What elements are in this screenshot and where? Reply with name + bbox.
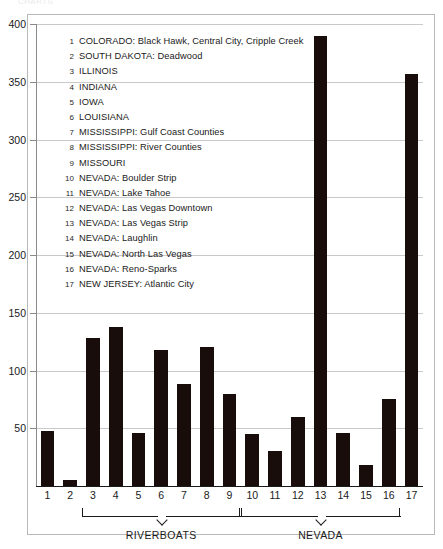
legend-item-number: 17 (60, 280, 79, 289)
bar-14 (336, 433, 350, 486)
legend-item-label: NEVADA: North Las Vegas (79, 249, 192, 259)
bracket-line-left (242, 516, 317, 517)
legend-item-label: SOUTH DAKOTA: Deadwood (79, 51, 202, 61)
bar-chart-figure: CHARTS 50100150200250300350400 123456789… (0, 0, 443, 549)
legend-item-number: 3 (60, 67, 79, 76)
legend-item-8: 8MISSISSIPPI: River Counties (60, 142, 320, 157)
legend-item-number: 6 (60, 113, 79, 122)
bar-6 (154, 350, 168, 486)
legend-item-number: 16 (60, 265, 79, 274)
legend-item-number: 8 (60, 143, 79, 152)
legend-item-label: LOUISIANA (79, 112, 129, 122)
legend-item-13: 13NEVADA: Las Vegas Strip (60, 218, 320, 233)
legend-item-9: 9MISSOURI (60, 158, 320, 173)
y-tick-label-100: 100 (0, 365, 26, 377)
bar-1 (41, 431, 55, 486)
legend-item-label: MISSOURI (79, 158, 125, 168)
nevada-bracket-label: NEVADA (298, 529, 343, 541)
group-brackets: RIVERBOATSNEVADA (36, 508, 423, 546)
y-tick-label-200: 200 (0, 249, 26, 261)
x-tick-label-8: 8 (204, 489, 210, 501)
legend-item-number: 4 (60, 83, 79, 92)
bar-11 (268, 451, 282, 486)
legend-item-label: ILLINOIS (79, 66, 118, 76)
y-tick-label-250: 250 (0, 191, 26, 203)
legend-item-label: NEVADA: Laughlin (79, 233, 158, 243)
bar-17 (405, 74, 419, 486)
x-tick-label-6: 6 (158, 489, 164, 501)
legend-item-7: 7MISSISSIPPI: Gulf Coast Counties (60, 127, 320, 142)
legend-item-label: NEVADA: Las Vegas Downtown (79, 203, 212, 213)
legend-item-number: 1 (60, 37, 79, 46)
legend-item-11: 11NEVADA: Lake Tahoe (60, 188, 320, 203)
legend-item-number: 2 (60, 52, 79, 61)
y-tick-label-350: 350 (0, 76, 26, 88)
legend-item-number: 12 (60, 204, 79, 213)
legend-item-label: NEVADA: Reno-Sparks (79, 264, 177, 274)
legend-item-number: 15 (60, 250, 79, 259)
y-tick-label-300: 300 (0, 134, 26, 146)
legend-item-label: NEW JERSEY: Atlantic City (79, 279, 194, 289)
bracket-line-left (83, 516, 158, 517)
x-axis-line (36, 486, 423, 487)
bracket-line-right (326, 516, 401, 517)
legend-item-3: 3ILLINOIS (60, 66, 320, 81)
legend-item-label: NEVADA: Lake Tahoe (79, 188, 171, 198)
x-tick-label-12: 12 (292, 489, 304, 501)
bar-9 (223, 394, 237, 486)
legend-item-1: 1COLORADO: Black Hawk, Central City, Cri… (60, 36, 320, 51)
legend: 1COLORADO: Black Hawk, Central City, Cri… (60, 36, 320, 294)
x-tick-label-3: 3 (90, 489, 96, 501)
legend-item-label: MISSISSIPPI: River Counties (79, 142, 202, 152)
nevada-bracket (241, 508, 399, 517)
legend-item-number: 9 (60, 159, 79, 168)
legend-item-17: 17NEW JERSEY: Atlantic City (60, 279, 320, 294)
legend-item-15: 15NEVADA: North Las Vegas (60, 249, 320, 264)
legend-item-16: 16NEVADA: Reno-Sparks (60, 264, 320, 279)
x-tick-label-4: 4 (113, 489, 119, 501)
clipped-header-text: CHARTS (18, 0, 53, 6)
y-tick-label-400: 400 (0, 18, 26, 30)
riverboats-bracket-label: RIVERBOATS (126, 529, 197, 541)
x-tick-label-15: 15 (360, 489, 372, 501)
legend-item-label: INDIANA (79, 82, 117, 92)
x-tick-label-11: 11 (270, 489, 281, 501)
x-tick-label-17: 17 (406, 489, 418, 501)
x-tick-label-10: 10 (246, 489, 258, 501)
legend-item-number: 10 (60, 174, 79, 183)
riverboats-bracket (82, 508, 240, 517)
legend-item-2: 2SOUTH DAKOTA: Deadwood (60, 51, 320, 66)
bar-3 (86, 338, 100, 486)
x-tick-label-9: 9 (227, 489, 233, 501)
bar-16 (382, 399, 396, 486)
legend-item-10: 10NEVADA: Boulder Strip (60, 173, 320, 188)
legend-item-number: 5 (60, 98, 79, 107)
bar-12 (291, 417, 305, 486)
x-tick-label-13: 13 (315, 489, 327, 501)
bracket-line-right (166, 516, 241, 517)
x-axis-labels: 1234567891011121314151617 (36, 489, 423, 505)
legend-item-label: MISSISSIPPI: Gulf Coast Counties (79, 127, 224, 137)
x-tick-label-5: 5 (136, 489, 142, 501)
bar-2 (63, 480, 77, 486)
legend-item-label: NEVADA: Las Vegas Strip (79, 218, 188, 228)
bar-15 (359, 465, 373, 486)
x-tick-label-14: 14 (337, 489, 349, 501)
legend-item-label: IOWA (79, 97, 104, 107)
bar-10 (245, 434, 259, 486)
legend-item-label: COLORADO: Black Hawk, Central City, Crip… (79, 36, 303, 46)
legend-item-14: 14NEVADA: Laughlin (60, 233, 320, 248)
y-tick-label-150: 150 (0, 307, 26, 319)
legend-item-number: 11 (60, 189, 79, 198)
legend-item-5: 5IOWA (60, 97, 320, 112)
legend-item-4: 4INDIANA (60, 82, 320, 97)
bar-5 (132, 433, 146, 486)
x-tick-label-1: 1 (44, 489, 50, 501)
legend-item-number: 14 (60, 234, 79, 243)
legend-item-number: 13 (60, 219, 79, 228)
bar-8 (200, 347, 214, 486)
bar-4 (109, 327, 123, 486)
legend-item-6: 6LOUISIANA (60, 112, 320, 127)
x-tick-label-16: 16 (383, 489, 395, 501)
bar-7 (177, 384, 191, 486)
